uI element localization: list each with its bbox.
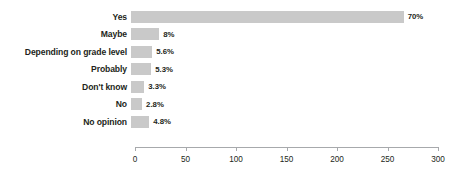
bar-track: 70% — [131, 8, 460, 26]
bar-value-probably: 5.3% — [155, 65, 173, 74]
x-axis: 050100150200250300 — [135, 147, 438, 148]
x-axis-tick-label: 100 — [229, 155, 243, 164]
bar-probably[interactable] — [131, 63, 151, 75]
bar-chart: Yes 70% Maybe 8% Depending on grade leve… — [0, 0, 460, 178]
bar-track: 5.6% — [131, 43, 460, 61]
chart-row: Depending on grade level 5.6% — [0, 43, 460, 61]
category-label-maybe: Maybe — [0, 29, 131, 39]
bar-dont-know[interactable] — [131, 81, 144, 93]
bar-depending-on-grade-level[interactable] — [131, 46, 152, 58]
chart-plot-area: Yes 70% Maybe 8% Depending on grade leve… — [0, 8, 460, 131]
x-axis-tick — [135, 147, 136, 151]
category-label-probably: Probably — [0, 64, 131, 74]
bar-no-opinion[interactable] — [131, 116, 149, 128]
chart-row: Maybe 8% — [0, 26, 460, 44]
bar-track: 2.8% — [131, 96, 460, 114]
category-label-dont-know: Don't know — [0, 82, 131, 92]
x-axis-tick — [388, 147, 389, 151]
bar-value-depending-on-grade-level: 5.6% — [156, 47, 174, 56]
chart-row: Probably 5.3% — [0, 61, 460, 79]
bar-maybe[interactable] — [131, 28, 159, 40]
bar-yes[interactable] — [131, 11, 404, 23]
x-axis-tick-label: 200 — [330, 155, 344, 164]
bar-track: 3.3% — [131, 78, 460, 96]
category-label-yes: Yes — [0, 12, 131, 22]
category-label-no: No — [0, 99, 131, 109]
chart-row: No opinion 4.8% — [0, 113, 460, 131]
category-label-no-opinion: No opinion — [0, 117, 131, 127]
x-axis-tick-label: 0 — [133, 155, 138, 164]
x-axis-tick — [337, 147, 338, 151]
bar-no[interactable] — [131, 98, 142, 110]
x-axis-tick — [287, 147, 288, 151]
bar-value-no: 2.8% — [146, 100, 164, 109]
bar-track: 5.3% — [131, 61, 460, 79]
chart-row: Don't know 3.3% — [0, 78, 460, 96]
x-axis-tick-label: 250 — [381, 155, 395, 164]
bar-value-dont-know: 3.3% — [148, 82, 166, 91]
bar-track: 8% — [131, 26, 460, 44]
category-label-depending-on-grade-level: Depending on grade level — [0, 47, 131, 57]
chart-row: Yes 70% — [0, 8, 460, 26]
x-axis-tick — [186, 147, 187, 151]
x-axis-tick-label: 50 — [181, 155, 190, 164]
x-axis-tick — [438, 147, 439, 151]
x-axis-tick-label: 150 — [280, 155, 294, 164]
x-axis-tick-label: 300 — [431, 155, 445, 164]
bar-value-maybe: 8% — [163, 30, 174, 39]
bar-value-yes: 70% — [408, 12, 424, 21]
x-axis-tick — [236, 147, 237, 151]
bar-value-no-opinion: 4.8% — [153, 117, 171, 126]
chart-row: No 2.8% — [0, 96, 460, 114]
bar-track: 4.8% — [131, 113, 460, 131]
